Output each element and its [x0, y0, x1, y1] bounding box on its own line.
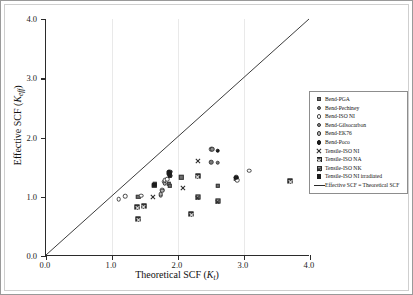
legend-item-bend-ek76: Bend-EK76 [313, 129, 405, 138]
ytick-3 [41, 78, 46, 79]
legend-label: Tensile-ISO NI irradiated [325, 172, 382, 181]
figure-frame: 0.0 1.0 2.0 3.0 4.0 0.0 1.0 2.0 3.0 4.0 … [0, 0, 413, 295]
legend-item-reference-line: Effective SCF = Theoretical SCF [313, 181, 405, 190]
point-tensile-iso-na [136, 217, 141, 222]
legend-marker-open-circle-icon [313, 114, 325, 119]
reference-line-identity [46, 19, 309, 255]
plot-area [45, 19, 309, 256]
y-axis-title: Effective SCF (Keff) [12, 7, 25, 244]
ytick-label-1: 1.0 [26, 192, 37, 202]
legend-item-bend-iso-ni: Bend-ISO NI [313, 112, 405, 121]
y-axis-title-sub: eff [17, 89, 25, 96]
legend-item-tensile-iso-ni-irradiated: Tensile-ISO NI irradiated [313, 172, 405, 181]
point-bend-gilsocarbon [210, 147, 215, 152]
legend-marker-x-grey-square-icon [313, 166, 325, 171]
legend-label: Effective SCF = Theoretical SCF [325, 181, 399, 190]
point-tensile-iso-ni-irradiated [152, 183, 156, 187]
point-tensile-iso-ni-irradiated [168, 173, 172, 177]
legend-item-bend-pechiney: Bend-Pechiney [313, 104, 405, 113]
legend-marker-filled-grey-circle-icon [313, 106, 325, 111]
legend-label: Bend-PGA [325, 95, 350, 104]
legend-marker-filled-grey-square-icon [313, 97, 325, 101]
x-axis-title: Theoretical SCF (Kt) [45, 269, 309, 282]
legend-item-tensile-iso-ni: Tensile-ISO NI [313, 147, 405, 156]
point-bend-poco [234, 176, 239, 181]
point-tensile-iso-na [135, 204, 140, 209]
point-bend-poco [215, 148, 220, 153]
legend-label: Bend-Gilsocarbon [325, 121, 366, 130]
ytick-4 [41, 19, 46, 20]
legend-marker-x-dark-square-icon [313, 157, 325, 162]
legend-item-tensile-iso-na: Tensile-ISO NA [313, 155, 405, 164]
ytick-label-4: 4.0 [26, 14, 37, 24]
legend-item-bend-poco: Bend-Poco [313, 138, 405, 147]
legend-label: Bend-Pechiney [325, 104, 359, 113]
point-tensile-iso-nk [195, 195, 200, 200]
point-bend-pechiney [209, 160, 214, 165]
legend-marker-x-icon [313, 148, 325, 154]
point-tensile-iso-ni [180, 185, 186, 191]
legend-item-bend-gilsocarbon: Bend-Gilsocarbon [313, 121, 405, 130]
legend: Bend-PGA Bend-Pechiney Bend-ISO NI Bend-… [309, 91, 408, 194]
point-bend-pechiney [215, 161, 220, 166]
ytick-label-0: 0.0 [26, 251, 37, 261]
ytick-2 [41, 138, 46, 139]
legend-label: Tensile-ISO NK [325, 164, 361, 173]
y-axis-title-text: Effective SCF ( [12, 103, 23, 166]
point-tensile-iso-nk [215, 199, 220, 204]
point-bend-iso-ni [116, 197, 121, 202]
legend-marker-filled-black-square-icon [313, 174, 325, 178]
y-axis-title-var: K [12, 96, 23, 103]
point-tensile-iso-ni [195, 158, 201, 164]
point-bend-iso-ni [247, 168, 252, 173]
point-tensile-iso-na [195, 173, 200, 178]
point-bend-iso-ni [123, 194, 128, 199]
legend-marker-line-icon [313, 185, 325, 186]
legend-item-tensile-iso-nk: Tensile-ISO NK [313, 164, 405, 173]
legend-marker-filled-black-circle-icon [313, 140, 325, 145]
legend-item-bend-pga: Bend-PGA [313, 95, 405, 104]
x-axis-title-close: ) [215, 269, 218, 280]
ytick-1 [41, 197, 46, 198]
ytick-label-2: 2.0 [26, 133, 37, 143]
y-axis-title-close: ) [12, 85, 23, 88]
legend-marker-light-grey-circle-icon [313, 131, 325, 136]
point-bend-iso-ni [139, 193, 144, 198]
legend-marker-filled-mid-grey-circle-icon [313, 123, 325, 128]
legend-label: Tensile-ISO NA [325, 155, 361, 164]
point-tensile-iso-ni [150, 194, 156, 200]
point-bend-pga [179, 175, 183, 179]
point-tensile-iso-na [189, 212, 194, 217]
legend-label: Tensile-ISO NI [325, 147, 359, 156]
legend-label: Bend-Poco [325, 138, 350, 147]
point-bend-pga [168, 184, 172, 188]
ytick-0 [41, 256, 46, 257]
point-tensile-iso-na [141, 203, 146, 208]
point-bend-ek76 [160, 189, 165, 194]
ytick-label-3: 3.0 [26, 73, 37, 83]
legend-label: Bend-ISO NI [325, 112, 355, 121]
point-bend-ek76 [163, 181, 168, 186]
legend-label: Bend-EK76 [325, 129, 352, 138]
point-bend-pga [215, 183, 219, 187]
point-tensile-iso-na [288, 178, 293, 183]
x-axis-title-text: Theoretical SCF ( [135, 269, 207, 280]
